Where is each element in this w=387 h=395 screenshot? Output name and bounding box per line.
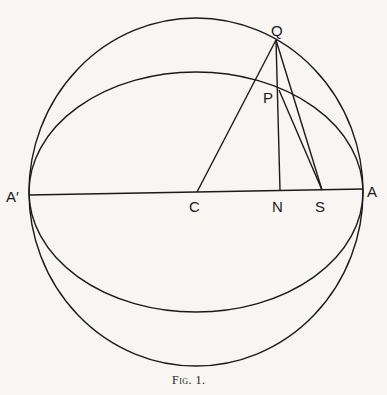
- label-Q: Q: [271, 22, 283, 39]
- figure-diagram: Q P A′ C N S A Fig. 1.: [0, 0, 387, 395]
- label-A-prime: A′: [6, 188, 19, 205]
- line-QN: [276, 40, 280, 190]
- line-CQ: [197, 40, 276, 192]
- line-PS: [279, 90, 322, 190]
- line-QS: [276, 40, 322, 190]
- label-C: C: [189, 198, 200, 215]
- label-P: P: [263, 89, 273, 106]
- major-axis: [29, 189, 363, 195]
- label-S: S: [315, 198, 325, 215]
- figure-caption: Fig. 1.: [172, 373, 206, 387]
- label-N: N: [272, 198, 283, 215]
- label-A: A: [367, 183, 377, 200]
